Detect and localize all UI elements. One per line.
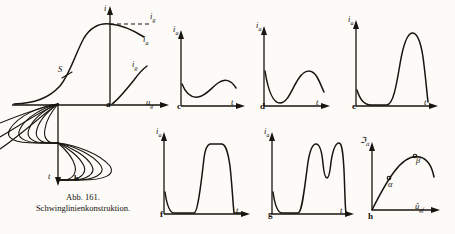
panel-g-y-axis-label: ia [264,127,269,138]
panel-b-t-arrowhead [55,177,61,186]
panel-b-key-letter: b [74,174,79,183]
panel-a-label-ig-curve: ig [132,60,137,71]
panel-h-label-beta: β [416,156,420,165]
panel-f: ia t f [150,122,262,230]
panel-g-y-arrowhead [269,132,275,141]
panel-e-y-arrowhead [353,20,359,29]
panel-h-transfer-curve [372,157,434,210]
panel-h-x-arrowhead [431,207,440,213]
panel-d-y-arrowhead [261,26,267,35]
figure-caption-title: Schwinglinienkonstruktion. [8,203,158,214]
panel-b: t b [0,96,130,194]
panel-c-waveform [182,80,236,97]
panel-d: ia t d [248,18,338,114]
panel-a-y-axis-label: i [104,4,106,13]
panel-f-x-arrowhead [241,211,250,217]
panel-c-key-letter: c [177,102,181,111]
figure-caption-number: Abb. 161. [8,192,158,203]
panel-a-label-ig-asymptote: ig [150,12,155,23]
panel-g-waveform [273,143,346,213]
panel-h: ℑa ûgf α β h [358,130,455,230]
panel-e-x-axis-label: t [424,98,426,107]
panel-b-graphic [0,96,130,194]
panel-c-y-axis-label: ia [173,25,178,36]
panel-f-waveform [165,144,242,213]
panel-a-label-ia-curve: ia [143,35,148,46]
panel-g-x-axis-label: t [340,206,342,215]
panel-c-y-arrowhead [178,30,184,39]
panel-a-label-steepness-S: S [58,65,62,74]
figure-caption: Abb. 161. Schwinglinienkonstruktion. [8,192,158,215]
panel-e-x-arrowhead [429,103,438,109]
panel-a-x-axis-label: ug [146,98,153,109]
panel-g: ia t g [258,122,368,230]
panel-g-graphic [258,122,368,230]
panel-h-label-alpha: α [388,180,392,189]
panel-d-key-letter: d [260,102,265,111]
panel-f-y-axis-label: ia [156,127,161,138]
panel-e-key-letter: e [352,102,356,111]
panel-g-key-letter: g [268,210,273,219]
panel-h-key-letter: h [368,212,373,221]
panel-c-x-axis-label: t [231,98,233,107]
panel-e-waveform [357,33,428,105]
panel-b-projection-line-2 [0,104,58,137]
panel-h-x-axis-label: ûgf [415,202,424,213]
panel-e: ia t e [340,12,448,114]
panel-a-slope-tick [62,72,72,78]
panel-b-t-axis-label: t [48,172,50,181]
panel-f-x-axis-label: t [236,206,238,215]
panel-c: ia t c [165,22,250,114]
panel-d-y-axis-label: ia [256,21,261,32]
figure-canvas: i ig ia ig S ug a t [0,0,455,234]
panel-e-graphic [340,12,448,114]
panel-a-y-arrowhead [107,6,113,15]
panel-f-y-arrowhead [161,132,167,141]
panel-f-key-letter: f [160,210,163,219]
panel-b-lobe-2 [19,104,58,143]
panel-d-x-axis-label: t [316,98,318,107]
panel-d-graphic [248,18,338,114]
panel-d-x-arrowhead [321,103,330,109]
panel-e-y-axis-label: ia [348,15,353,26]
panel-h-y-axis-label: ℑa [360,136,370,147]
panel-b-lobe-6 [58,143,112,180]
panel-f-graphic [150,122,262,230]
panel-c-x-arrowhead [236,103,245,109]
